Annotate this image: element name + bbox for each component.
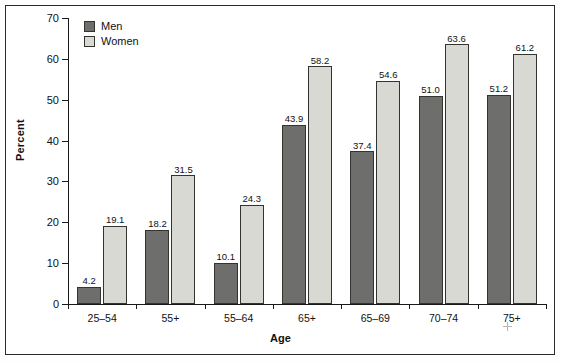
bar-value-label: 37.4 <box>353 141 372 151</box>
bar-value-label: 54.6 <box>379 70 398 80</box>
bar-men: 18.2 <box>145 230 169 304</box>
bar-group: 43.958.2 <box>273 18 341 304</box>
bar-value-label: 43.9 <box>285 114 304 124</box>
bar-group: 10.124.3 <box>205 18 273 304</box>
chart-legend: MenWomen <box>84 19 139 49</box>
legend-item-label: Men <box>101 21 122 32</box>
bar-group: 18.231.5 <box>136 18 204 304</box>
y-axis-tick-label: 30 <box>47 176 59 187</box>
bar-value-label: 31.5 <box>174 165 193 175</box>
x-axis-title: Age <box>0 332 561 344</box>
bar-value-label: 10.1 <box>216 252 235 262</box>
y-axis-tick-label: 50 <box>47 94 59 105</box>
x-axis-tick-mark <box>546 304 547 309</box>
y-axis-title: Percent <box>14 119 26 161</box>
bar-men: 10.1 <box>214 263 238 304</box>
x-axis-category-label: 65+ <box>298 312 316 324</box>
bar-men: 43.9 <box>282 125 306 304</box>
legend-swatch-icon <box>84 36 95 47</box>
bar-group: 37.454.6 <box>341 18 409 304</box>
y-axis-tick-label: 0 <box>53 299 59 310</box>
x-axis-category-label: 25–54 <box>88 312 117 324</box>
x-axis-tick-mark <box>136 304 137 309</box>
legend-item-women: Women <box>84 34 139 48</box>
bar-women: 24.3 <box>240 205 264 304</box>
bar-value-label: 24.3 <box>242 194 261 204</box>
bar-women: 54.6 <box>376 81 400 304</box>
bar-value-label: 18.2 <box>148 219 167 229</box>
bar-value-label: 51.2 <box>490 84 509 94</box>
y-axis-tick-label: 20 <box>47 217 59 228</box>
bar-women: 19.1 <box>103 226 127 304</box>
registration-mark-icon <box>503 322 512 331</box>
bar-value-label: 19.1 <box>106 215 125 225</box>
bar-value-label: 61.2 <box>516 43 535 53</box>
x-axis-tick-mark <box>68 304 69 309</box>
bar-women: 31.5 <box>171 175 195 304</box>
bar-value-label: 63.6 <box>447 34 466 44</box>
x-axis-tick-mark <box>478 304 479 309</box>
x-axis-category-label: 55+ <box>162 312 180 324</box>
bar-value-label: 58.2 <box>311 56 330 66</box>
legend-swatch-icon <box>84 21 95 32</box>
legend-item-men: Men <box>84 19 139 33</box>
x-axis-tick-mark <box>205 304 206 309</box>
bar-women: 63.6 <box>445 44 469 304</box>
x-axis-category-label: 65–69 <box>361 312 390 324</box>
plot-area: 010203040506070 4.219.118.231.510.124.34… <box>68 18 546 304</box>
chart-figure: Percent Age 010203040506070 4.219.118.23… <box>0 0 561 362</box>
bar-men: 51.2 <box>487 95 511 304</box>
x-axis-line <box>68 304 546 305</box>
legend-item-label: Women <box>101 36 139 47</box>
x-axis-category-label: 70–74 <box>429 312 458 324</box>
x-axis-tick-mark <box>341 304 342 309</box>
bar-group: 51.063.6 <box>409 18 477 304</box>
bar-men: 4.2 <box>77 287 101 304</box>
x-axis-category-label: 55–64 <box>224 312 253 324</box>
y-axis-tick-label: 70 <box>47 13 59 24</box>
bar-value-label: 51.0 <box>421 85 440 95</box>
y-axis-tick-label: 10 <box>47 258 59 269</box>
bar-group: 4.219.1 <box>68 18 136 304</box>
x-axis-tick-mark <box>273 304 274 309</box>
bar-women: 61.2 <box>513 54 537 304</box>
bar-group: 51.261.2 <box>478 18 546 304</box>
bar-men: 51.0 <box>419 96 443 304</box>
bar-men: 37.4 <box>350 151 374 304</box>
y-axis-tick-label: 40 <box>47 135 59 146</box>
bar-women: 58.2 <box>308 66 332 304</box>
y-axis-tick-label: 60 <box>47 53 59 64</box>
bar-value-label: 4.2 <box>83 276 96 286</box>
x-axis-tick-mark <box>409 304 410 309</box>
